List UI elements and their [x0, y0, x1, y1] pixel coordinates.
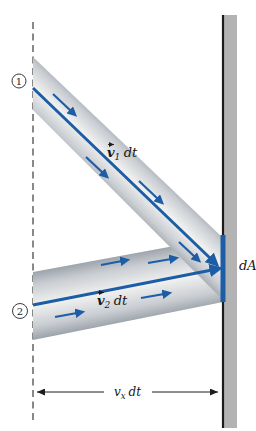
streamtube-1-centerline — [33, 88, 211, 259]
wall — [224, 15, 237, 428]
station-2-badge: 2 — [13, 304, 28, 319]
station-2-number: 2 — [17, 306, 23, 317]
label-vx-dt: vxdt — [114, 385, 141, 401]
station-1-badge: 1 — [12, 74, 26, 88]
diagram-canvas: 1 2 v1dt v2dt dA vxdt — [0, 0, 256, 431]
streamtube-diagram: 1 2 v1dt v2dt dA vxdt — [0, 0, 256, 431]
label-dA: dA — [239, 258, 256, 273]
station-1-number: 1 — [16, 76, 22, 87]
